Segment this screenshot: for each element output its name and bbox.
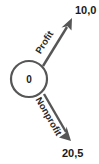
diagram-canvas: 0 Profit Nonprofit 10,0 20,5 [0,0,99,164]
nonprofit-payoff-label: 20,5 [62,147,83,159]
decision-node-label: 0 [26,74,32,85]
profit-payoff-label: 10,0 [75,4,96,16]
game-tree-diagram: 0 Profit Nonprofit 10,0 20,5 [0,0,99,164]
